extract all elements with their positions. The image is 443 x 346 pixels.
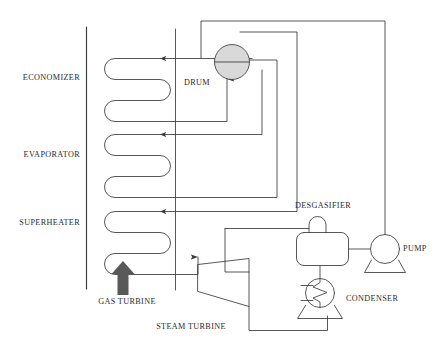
- condenser-coil-zigzag: [313, 279, 327, 308]
- superheater-to-turbine-line: [160, 257, 198, 275]
- label-economizer: ECONOMIZER: [6, 74, 80, 82]
- condenser-body: [298, 279, 343, 319]
- superheater-coil: [105, 212, 171, 275]
- pump-body: [365, 235, 406, 273]
- economizer-coil: [105, 59, 171, 122]
- label-gas-turbine: GAS TURBINE: [88, 298, 166, 306]
- steam-turbine-body: [198, 259, 249, 307]
- label-pump: PUMP: [403, 245, 427, 253]
- desgasifier-dome: [309, 217, 326, 233]
- label-steam-turbine: STEAM TURBINE: [145, 323, 237, 331]
- label-condenser: CONDENSER: [346, 295, 398, 303]
- extraction-from-turbine-line: [225, 229, 249, 273]
- label-drum: DRUM: [176, 79, 218, 87]
- label-evaporator: EVAPORATOR: [6, 151, 80, 159]
- evaporator-coil: [105, 135, 171, 198]
- desgasifier-body: [297, 217, 349, 266]
- hrsg-process-diagram: ECONOMIZER EVAPORATOR SUPERHEATER DRUM G…: [0, 0, 443, 346]
- evaporator-to-drum-riser: [160, 47, 277, 198]
- label-superheater: SUPERHEATER: [3, 219, 80, 227]
- gas-turbine-arrow: [112, 261, 135, 295]
- label-desgasifier: DESGASIFIER: [288, 202, 358, 210]
